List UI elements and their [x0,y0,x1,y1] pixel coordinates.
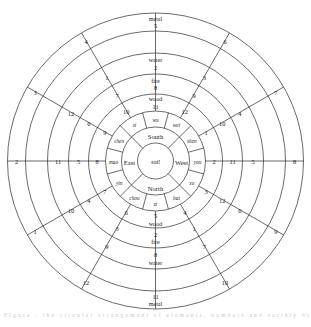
branch-wu: wu [152,117,159,123]
bottom-element-metal: metal [149,301,163,307]
top-number-wood: 11 [152,103,158,110]
left-number-2: 11 [55,158,61,165]
spoke-branch-3 [188,170,203,174]
left-number-0: 8 [95,158,98,165]
ll-b-number-2: 10 [68,207,74,214]
spoke-direction-1 [168,174,179,185]
bottom-element-wood: wood [149,221,163,227]
lr-b-number-2: 6 [238,207,241,214]
left-number-3: 2 [15,158,18,165]
bottom-number-metal: 11 [152,293,158,300]
lr-b-number-3: 9 [274,228,277,235]
ul-b-number-3: 3 [34,89,37,96]
direction-west: West [175,159,188,166]
spoke-direction-3 [131,137,142,148]
top-element-fire: fire [151,78,160,84]
ll-b-number-3: 1 [34,228,37,235]
branch-chou: chou [129,195,140,201]
top-element-water: water [149,57,163,63]
center-label-soil: soil [151,158,160,165]
ur-a-number-1: 9 [192,92,195,99]
direction-east: East [124,159,136,166]
spoke-branch-10 [120,126,131,137]
bottom-number-fire: 2 [154,231,157,238]
ur-b-number-2: 4 [238,110,242,117]
bottom-element-fire: fire [151,239,160,245]
ur-a-number-3: 6 [223,38,226,45]
ul-a-number-2: 1 [105,74,108,81]
spoke-branch-8 [107,170,122,174]
spoke-branch-4 [180,185,191,196]
top-number-water: 2 [154,64,157,71]
ll-a-number-2: 9 [105,243,108,250]
ll-a-number-0: 6 [125,209,128,216]
direction-north: North [148,185,164,192]
figure-caption-faint: Figure : the circular arrangement of ele… [0,312,311,327]
spoke-branch-1 [180,126,191,137]
branch-xu: xu [188,180,194,186]
right-number-2: 5 [251,158,254,165]
top-number-fire: 8 [154,84,157,91]
direction-south: South [148,133,164,140]
branch-you: you [193,159,202,165]
branch-hai: hai [173,195,180,201]
ul-a-number-0: 10 [123,108,129,115]
lr-a-number-3: 10 [222,279,228,286]
ul-b-number-2: 12 [68,110,74,117]
spoke-branch-2 [188,148,203,152]
branch-mao: mao [109,159,118,165]
left-number-1: 5 [77,158,80,165]
ur-b-number-1: 10 [219,120,225,127]
spoke-direction-2 [131,174,142,185]
lr-a-number-1: 1 [192,225,195,232]
bottom-element-water: water [149,260,163,266]
ur-a-number-2: 3 [203,74,206,81]
lr-b-number-1: 12 [219,197,225,204]
bottom-number-water: 8 [154,251,157,258]
cosmological-wheel-diagram: soilSouthNorthWestEastwuweishenyouxuhaiz… [0,0,311,327]
spoke-branch-6 [143,194,147,209]
figure-container: soilSouthNorthWestEastwuweishenyouxuhaiz… [0,0,311,327]
ll-b-number-1: 4 [87,197,91,204]
top-element-wood: wood [149,96,163,102]
ul-b-number-1: 6 [87,120,90,127]
spoke-direction-0 [168,137,179,148]
ur-b-number-3: 7 [274,89,278,96]
wheel-labels: soilSouthNorthWestEastwuweishenyouxuhaiz… [15,16,296,308]
ul-b-number-0: 9 [103,129,106,136]
spoke-branch-0 [164,113,168,128]
right-number-3: 8 [293,158,296,165]
branch-wei: wei [173,122,181,128]
lr-b-number-0: 3 [205,188,208,195]
branch-chen_left: chen [114,138,124,144]
branch-zi: zi [153,201,158,207]
branch-si: si [133,122,137,128]
branch-yin: yin [115,180,123,186]
ll-a-number-1: 3 [115,225,118,232]
top-element-metal: metal [149,16,163,22]
right-number-0: 2 [212,158,215,165]
branch-shen: shen [187,138,197,144]
spoke-branch-9 [107,148,122,152]
top-number-metal: 5 [154,22,157,29]
right-number-1: 11 [229,158,235,165]
ur-b-number-0: 1 [205,129,208,136]
ll-a-number-3: 12 [83,279,89,286]
ll-b-number-0: 7 [103,188,107,195]
bottom-number-wood: 5 [154,212,157,219]
spoke-branch-11 [143,113,147,128]
ur-a-number-0: 12 [182,108,188,115]
spoke-branch-5 [164,194,168,209]
